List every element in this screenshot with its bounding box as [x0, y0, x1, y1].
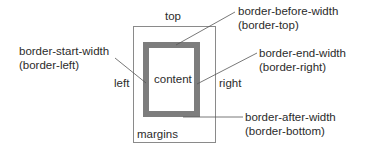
label-right: right	[219, 76, 241, 90]
callout-border-start: border-start-width (border-left)	[19, 44, 109, 72]
leader-border-before	[176, 12, 235, 45]
label-left: left	[114, 76, 129, 90]
callout-border-start-alias: (border-left)	[19, 58, 109, 72]
callout-border-end-name: border-end-width	[259, 46, 346, 60]
label-margins: margins	[137, 127, 178, 141]
label-top: top	[165, 9, 181, 23]
callout-border-before-name: border-before-width	[238, 4, 338, 18]
callout-border-before: border-before-width (border-top)	[238, 4, 338, 32]
callout-border-before-alias: (border-top)	[238, 18, 338, 32]
label-content: content	[154, 72, 192, 86]
callout-border-start-name: border-start-width	[19, 44, 109, 58]
callout-border-after: border-after-width (border-bottom)	[245, 110, 336, 138]
callout-border-end: border-end-width (border-right)	[259, 46, 346, 74]
callout-border-after-name: border-after-width	[245, 110, 336, 124]
callout-border-end-alias: (border-right)	[259, 60, 346, 74]
callout-border-after-alias: (border-bottom)	[245, 124, 336, 138]
